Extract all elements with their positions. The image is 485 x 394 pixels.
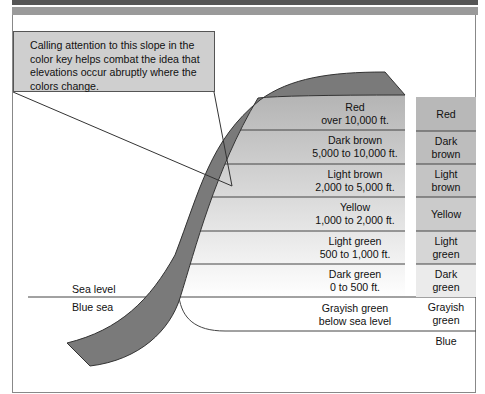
- key-grayish-green: Grayishgreen: [416, 297, 476, 331]
- key-red: Red: [416, 97, 476, 131]
- key-light-brown: Lightbrown: [416, 164, 476, 197]
- band-dark-green: Dark green0 to 500 ft.: [300, 268, 410, 294]
- sea-level-label: Sea level: [72, 283, 116, 296]
- band-grayish-green: Grayish greenbelow sea level: [300, 302, 410, 328]
- key-blue: Blue: [416, 333, 476, 349]
- key-yellow: Yellow: [416, 197, 476, 231]
- band-light-brown: Light brown2,000 to 5,000 ft.: [300, 168, 410, 194]
- band-light-green: Light green500 to 1,000 ft.: [300, 235, 410, 261]
- key-dark-brown: Darkbrown: [416, 131, 476, 164]
- blue-sea-label: Blue sea: [72, 301, 113, 314]
- callout-note: Calling attention to this slope in the c…: [13, 31, 215, 92]
- band-dark-brown: Dark brown5,000 to 10,000 ft.: [300, 134, 410, 160]
- callout-pointer-left: [13, 92, 232, 186]
- key-dark-green: Darkgreen: [416, 264, 476, 297]
- key-light-green: Lightgreen: [416, 231, 476, 264]
- band-red: Redover 10,000 ft.: [300, 101, 410, 127]
- band-yellow: Yellow1,000 to 2,000 ft.: [300, 201, 410, 227]
